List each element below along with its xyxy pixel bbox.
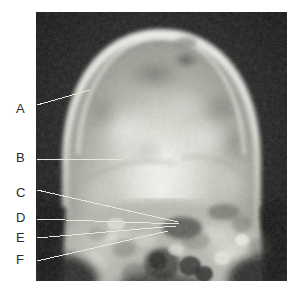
label-d: D: [16, 211, 26, 224]
label-c: C: [16, 186, 26, 199]
radiograph-canvas: [36, 12, 287, 281]
label-f: F: [16, 253, 24, 266]
film-grain-fine: [36, 12, 287, 281]
label-a: A: [16, 102, 25, 115]
skull-radiograph-image: [36, 12, 287, 281]
radiograph-figure: ABCDEF: [0, 0, 297, 291]
label-b: B: [16, 151, 25, 164]
label-e: E: [16, 231, 25, 244]
